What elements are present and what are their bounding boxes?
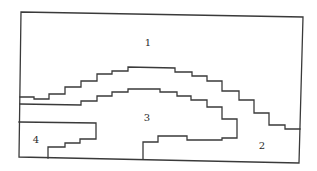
region-1-boundary — [20, 67, 300, 129]
region-3-label: 3 — [144, 112, 150, 123]
region-4-boundary — [19, 122, 96, 158]
region-2-label: 2 — [259, 140, 265, 151]
region-4-label: 4 — [33, 134, 39, 145]
region-3-boundary — [20, 89, 237, 159]
region-1-label: 1 — [145, 37, 151, 48]
region-diagram: 1 2 3 4 — [0, 0, 317, 171]
